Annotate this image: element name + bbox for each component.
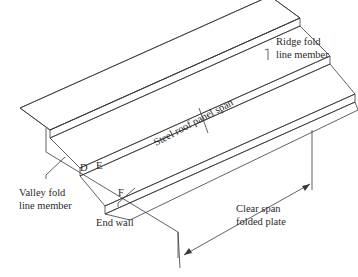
folded-plate-diagram: Ridge fold line member Valley fold line … bbox=[0, 0, 358, 277]
ridge-label-line1: Ridge fold bbox=[276, 36, 321, 47]
roof-plate-7 bbox=[105, 102, 358, 220]
roof-plate-1 bbox=[20, 0, 300, 130]
point-f-label: F bbox=[118, 187, 124, 198]
end-wall-label: End wall bbox=[96, 217, 134, 228]
valley-label-line1: Valley fold bbox=[19, 187, 66, 198]
clear-span-label-line2: folded plate bbox=[236, 216, 286, 227]
point-e-label: E bbox=[96, 160, 102, 171]
roof-plate-6 bbox=[105, 94, 355, 214]
clear-span-label-line1: Clear span bbox=[236, 203, 281, 214]
valley-label-line2: line member bbox=[19, 200, 72, 211]
supports bbox=[46, 128, 312, 268]
panel-span-label: Steel roof panel span bbox=[152, 96, 236, 148]
ridge-label-line2: line member bbox=[276, 49, 329, 60]
point-d-label: D bbox=[80, 162, 88, 173]
